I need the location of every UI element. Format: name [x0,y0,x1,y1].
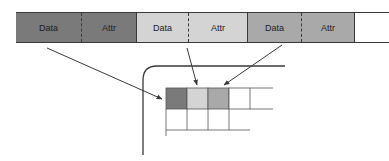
container-frame [143,66,285,155]
arrow-dark [47,48,162,99]
grid-cell-light [187,88,208,109]
grid-cell-dark [166,88,187,109]
arrow-medium [224,45,282,85]
grid-cell-empty-1 [229,88,250,109]
grid-cell-medium [208,88,229,109]
